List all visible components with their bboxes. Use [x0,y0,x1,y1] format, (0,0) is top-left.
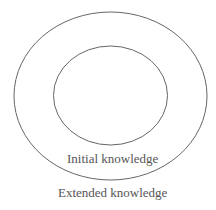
inner-ellipse-initial-knowledge [54,46,168,145]
extended-knowledge-label: Extended knowledge [58,185,167,201]
knowledge-diagram [0,0,216,210]
initial-knowledge-label: Initial knowledge [67,151,158,167]
